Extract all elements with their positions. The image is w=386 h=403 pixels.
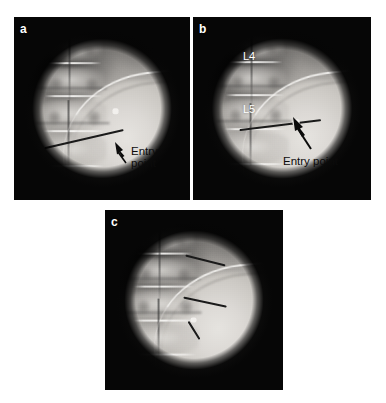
- panel-c: c: [105, 210, 283, 390]
- level-label-l4: L4: [243, 51, 255, 62]
- panel-letter-c: c: [111, 216, 118, 228]
- figure-root: a Entry point: [0, 0, 386, 403]
- entry-point-label-b: Entry point: [283, 155, 338, 167]
- level-label-l5: L5: [243, 104, 255, 115]
- entry-point-arrow-b: [290, 114, 320, 154]
- field-vignette-b: [193, 17, 371, 200]
- panel-letter-a: a: [20, 23, 27, 35]
- panel-letter-b: b: [199, 23, 206, 35]
- panel-b: b L4 L5 Entry point: [193, 17, 371, 200]
- entry-point-label-a: Entry point: [131, 145, 158, 170]
- field-vignette-c: [105, 210, 283, 390]
- field-vignette-a: [14, 17, 190, 200]
- panel-a: a Entry point: [14, 17, 190, 200]
